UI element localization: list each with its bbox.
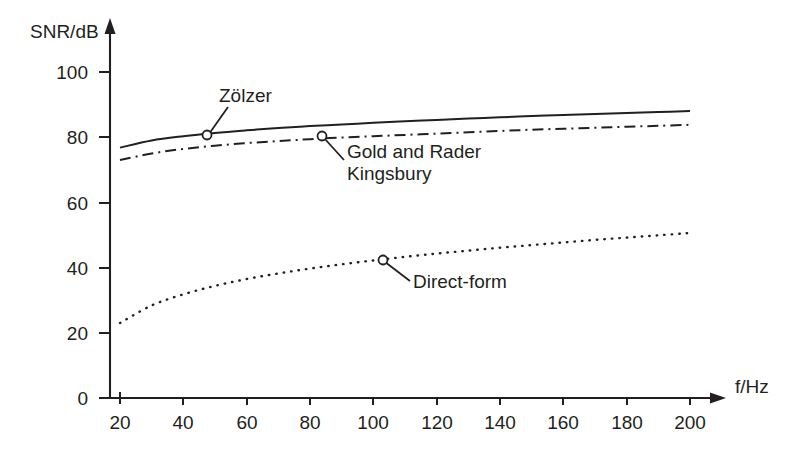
- y-axis: [105, 18, 116, 399]
- leader-line-direct-form: [385, 262, 410, 281]
- y-tick-label-60: 60: [67, 193, 88, 214]
- x-tick-label-180: 180: [611, 412, 643, 433]
- marker-zolzer: [203, 131, 212, 140]
- snr-vs-frequency-chart: SNR/dB f/Hz 100 80 60 40 20 0: [0, 0, 794, 464]
- series-label-direct-form: Direct-form: [413, 271, 507, 292]
- series-label-kingsbury: Kingsbury: [347, 163, 432, 184]
- y-tick-label-0: 0: [77, 388, 88, 409]
- y-tick-label-20: 20: [67, 323, 88, 344]
- x-tick-label-160: 160: [547, 412, 579, 433]
- x-tick-label-120: 120: [421, 412, 453, 433]
- x-tick-label-80: 80: [299, 412, 320, 433]
- y-tick-group: 100 80 60 40 20 0: [56, 62, 110, 409]
- x-tick-label-60: 60: [236, 412, 257, 433]
- x-tick-label-200: 200: [674, 412, 706, 433]
- y-tick-label-80: 80: [67, 127, 88, 148]
- x-axis-title: f/Hz: [735, 376, 769, 397]
- x-tick-label-140: 140: [484, 412, 516, 433]
- annotation-direct-form: Direct-form: [379, 256, 507, 293]
- y-tick-label-40: 40: [67, 258, 88, 279]
- leader-line-zolzer: [209, 107, 228, 134]
- x-tick-label-20: 20: [109, 412, 130, 433]
- leader-line-gold-rader: [324, 138, 344, 160]
- marker-gold-rader-kingsbury: [318, 132, 327, 141]
- x-axis-arrow-icon: [710, 393, 726, 404]
- marker-direct-form: [379, 256, 388, 265]
- x-tick-label-100: 100: [357, 412, 389, 433]
- x-axis: [110, 393, 726, 404]
- series-label-zolzer: Zölzer: [219, 85, 272, 106]
- y-tick-label-100: 100: [56, 62, 88, 83]
- chart-figure: SNR/dB f/Hz 100 80 60 40 20 0: [0, 0, 794, 464]
- y-axis-title: SNR/dB: [30, 21, 99, 42]
- x-tick-label-40: 40: [172, 412, 193, 433]
- annotation-gold-rader-kingsbury: Gold and Rader Kingsbury: [318, 132, 482, 185]
- series-label-gold-rader: Gold and Rader: [347, 141, 482, 162]
- y-axis-arrow-icon: [105, 18, 116, 34]
